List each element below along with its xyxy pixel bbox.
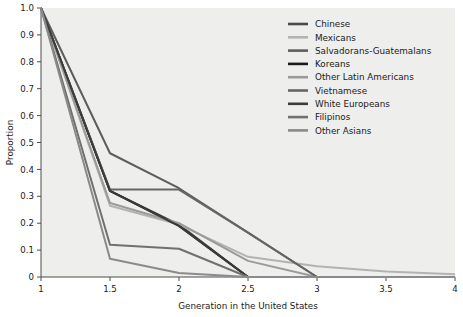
x-tick-label: 1: [38, 284, 43, 294]
y-tick-label: 0.9: [20, 30, 34, 40]
y-axis-title: Proportion: [5, 120, 15, 165]
x-axis-title: Generation in the United States: [178, 301, 318, 311]
y-tick-label: 0.1: [20, 245, 34, 255]
x-tick-label: 4: [452, 284, 457, 294]
x-tick-label: 2.5: [241, 284, 255, 294]
legend-label: Filipinos: [315, 112, 351, 122]
y-tick-label: 0.8: [20, 57, 34, 67]
y-tick-label: 0: [29, 272, 34, 282]
y-tick-label: 0.4: [20, 165, 34, 175]
x-tick-label: 1.5: [103, 284, 117, 294]
y-tick-label: 0.3: [20, 191, 34, 201]
x-tick-label: 3: [314, 284, 319, 294]
legend-label: Vietnamese: [315, 86, 367, 96]
legend-label: Koreans: [315, 59, 351, 69]
y-tick-label: 0.2: [20, 218, 34, 228]
legend-label: White Europeans: [315, 99, 390, 109]
x-tick-label: 3.5: [379, 284, 393, 294]
y-tick-label: 0.7: [20, 84, 34, 94]
y-tick-label: 0.5: [20, 138, 34, 148]
chart-figure: 00.10.20.30.40.50.60.70.80.91.011.522.53…: [0, 0, 463, 317]
legend-label: Other Latin Americans: [315, 72, 414, 82]
legend-label: Other Asians: [315, 126, 372, 136]
legend-label: Mexicans: [315, 33, 356, 43]
x-tick-label: 2: [176, 284, 181, 294]
y-tick-label: 0.6: [20, 111, 34, 121]
y-tick-label: 1.0: [20, 3, 34, 13]
legend-label: Chinese: [315, 19, 350, 29]
line-chart: 00.10.20.30.40.50.60.70.80.91.011.522.53…: [0, 0, 463, 317]
legend-label: Salvadorans-Guatemalans: [315, 46, 432, 56]
